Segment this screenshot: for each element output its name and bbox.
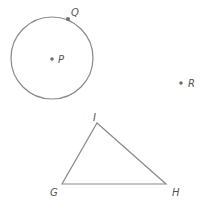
label-g: G [50,187,58,198]
geometry-diagram: P Q R G H I [0,0,206,201]
triangle-ghi [62,123,166,184]
point-q [66,17,70,21]
point-r [179,81,183,85]
label-h: H [172,187,180,198]
label-r: R [188,78,195,89]
label-q: Q [71,7,79,18]
point-p [50,57,54,61]
label-i: I [93,112,96,123]
label-p: P [58,54,65,65]
